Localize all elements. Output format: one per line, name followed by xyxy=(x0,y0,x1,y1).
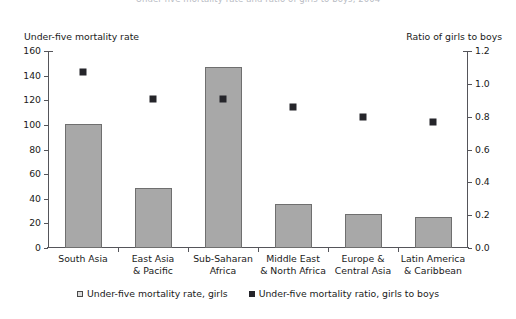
ratio-marker xyxy=(430,118,437,125)
ratio-marker xyxy=(290,103,297,110)
right-axis-tick xyxy=(468,215,472,216)
bar xyxy=(415,217,452,248)
x-axis-tick xyxy=(118,248,119,252)
ratio-marker xyxy=(220,95,227,102)
x-axis-category-label-line: Europe & xyxy=(328,253,398,265)
x-axis-category-label-line: Africa xyxy=(188,265,258,277)
left-axis-tick xyxy=(44,125,48,126)
left-axis-tick xyxy=(44,199,48,200)
left-axis-tick-label: 20 xyxy=(29,218,41,227)
plot-area: 020406080100120140160 0.00.20.40.60.81.0… xyxy=(48,51,468,248)
x-axis-category-label-line: East Asia xyxy=(118,253,188,265)
legend-bar-swatch-icon xyxy=(77,291,83,297)
left-axis-tick xyxy=(44,150,48,151)
legend-item-label: Under-five mortality ratio, girls to boy… xyxy=(259,288,439,299)
x-axis-category-label-line: South Asia xyxy=(48,253,118,265)
left-axis-tick-label: 120 xyxy=(23,95,41,104)
left-axis-tick-label: 160 xyxy=(23,46,41,55)
x-axis-tick xyxy=(258,248,259,252)
bar xyxy=(135,188,172,248)
x-axis-tick xyxy=(328,248,329,252)
x-axis-category-label: Latin America& Caribbean xyxy=(398,253,468,276)
x-axis-tick xyxy=(398,248,399,252)
left-axis-tick xyxy=(44,76,48,77)
right-axis-tick-label: 1.0 xyxy=(475,79,490,88)
x-axis-category-label: Europe &Central Asia xyxy=(328,253,398,276)
right-axis-tick xyxy=(468,117,472,118)
left-axis-tick-label: 80 xyxy=(29,145,41,154)
right-axis-tick-label: 0.2 xyxy=(475,210,490,219)
x-axis-category-label: Middle East& North Africa xyxy=(258,253,328,276)
right-axis-tick xyxy=(468,51,472,52)
bar xyxy=(275,204,312,248)
right-axis-tick-label: 0.4 xyxy=(475,177,490,186)
left-axis-tick-label: 140 xyxy=(23,71,41,80)
x-axis-category-label-line: Middle East xyxy=(258,253,328,265)
right-axis-tick xyxy=(468,150,472,151)
left-axis-caption: Under-five mortality rate xyxy=(24,31,139,42)
right-axis-tick xyxy=(468,84,472,85)
left-axis-tick xyxy=(44,223,48,224)
left-axis-tick xyxy=(44,100,48,101)
x-axis-category-label-line: Latin America xyxy=(398,253,468,265)
figure-title: Under-five mortality rate and ratio of g… xyxy=(0,0,516,4)
left-axis-tick xyxy=(44,248,48,249)
x-axis-category-label-line: Sub-Saharan xyxy=(188,253,258,265)
left-axis-tick xyxy=(44,174,48,175)
x-axis-category-label-line: & Caribbean xyxy=(398,265,468,277)
left-axis-tick-label: 0 xyxy=(35,243,41,252)
left-axis-spine xyxy=(48,51,49,248)
right-axis-caption: Ratio of girls to boys xyxy=(406,31,502,42)
left-axis-tick-label: 60 xyxy=(29,169,41,178)
chart-legend: Under-five mortality rate, girlsUnder-fi… xyxy=(0,288,516,299)
bar xyxy=(345,214,382,248)
x-axis-tick xyxy=(188,248,189,252)
x-axis-category-label-line: & North Africa xyxy=(258,265,328,277)
x-axis-category-label-line: & Pacific xyxy=(118,265,188,277)
legend-item: Under-five mortality ratio, girls to boy… xyxy=(249,288,439,299)
chart-figure: Under-five mortality rate and ratio of g… xyxy=(0,0,516,319)
right-axis-tick-label: 0.6 xyxy=(475,145,490,154)
left-axis-tick xyxy=(44,51,48,52)
legend-item: Under-five mortality rate, girls xyxy=(77,288,228,299)
right-axis-tick xyxy=(468,182,472,183)
x-axis-category-label-line: Central Asia xyxy=(328,265,398,277)
ratio-marker xyxy=(80,69,87,76)
left-axis-tick-label: 100 xyxy=(23,120,41,129)
right-axis-tick-label: 0.8 xyxy=(475,112,490,121)
ratio-marker xyxy=(360,113,367,120)
right-axis-tick xyxy=(468,248,472,249)
left-axis-corner xyxy=(48,51,53,52)
right-axis-tick-label: 1.2 xyxy=(475,46,490,55)
bar xyxy=(65,124,102,248)
x-axis-category-label: Sub-SaharanAfrica xyxy=(188,253,258,276)
ratio-marker xyxy=(150,95,157,102)
x-axis-category-label: South Asia xyxy=(48,253,118,265)
legend-item-label: Under-five mortality rate, girls xyxy=(87,288,228,299)
left-axis-tick-label: 40 xyxy=(29,194,41,203)
x-axis-category-label: East Asia& Pacific xyxy=(118,253,188,276)
legend-marker-swatch-icon xyxy=(249,291,255,297)
right-axis-tick-label: 0.0 xyxy=(475,243,490,252)
